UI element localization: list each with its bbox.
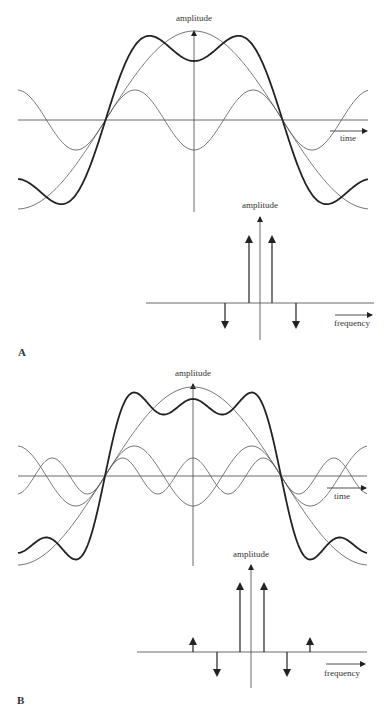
- panel-a-label: A: [18, 346, 26, 358]
- panel-b-time-plot: time amplitude: [18, 368, 367, 566]
- fourier-diagram: time amplitude frequency amplitude A tim…: [0, 0, 391, 717]
- panel-b-spectrum: frequency amplitude: [137, 549, 367, 688]
- time-label: time: [334, 491, 350, 501]
- panel-b-label: B: [17, 694, 25, 706]
- amplitude-label: amplitude: [176, 13, 212, 23]
- panel-a-spectrum: frequency amplitude: [146, 200, 374, 340]
- spectrum-amplitude-label: amplitude: [233, 549, 269, 559]
- amplitude-label: amplitude: [175, 368, 211, 378]
- panel-a-time-plot: time amplitude: [18, 13, 368, 212]
- frequency-label: frequency: [334, 318, 370, 328]
- time-label: time: [340, 133, 356, 143]
- spectrum-amplitude-label: amplitude: [242, 200, 278, 210]
- frequency-label: frequency: [324, 668, 360, 678]
